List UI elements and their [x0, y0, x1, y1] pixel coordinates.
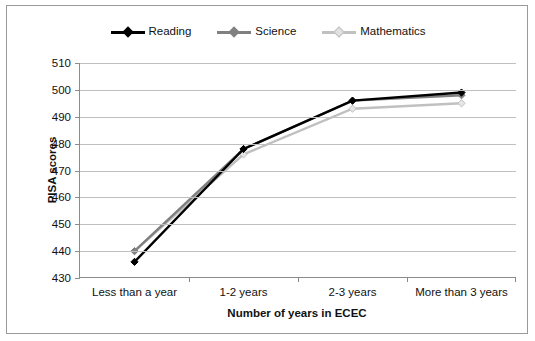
gridline: [80, 224, 516, 225]
y-axis-label: 470: [52, 165, 71, 177]
gridline: [80, 144, 516, 145]
chart-frame: Reading Science Mathematics PISA scores …: [6, 5, 528, 334]
y-axis-tick: [75, 171, 80, 172]
gridline: [80, 251, 516, 252]
legend-item-reading: Reading: [111, 26, 192, 38]
y-axis-tick: [75, 224, 80, 225]
gridline: [80, 90, 516, 91]
y-axis-tick: [75, 90, 80, 91]
gridline: [80, 117, 516, 118]
y-axis-label: 450: [52, 218, 71, 230]
y-axis-tick: [75, 251, 80, 252]
x-axis-tick: [515, 277, 516, 282]
x-axis-label: 1-2 years: [220, 286, 268, 298]
data-point-marker: [349, 97, 356, 104]
legend-key-mathematics: [322, 26, 356, 38]
y-axis-tick: [75, 144, 80, 145]
y-axis-label: 500: [52, 84, 71, 96]
diamond-marker-icon: [334, 26, 345, 37]
data-point-marker: [458, 100, 465, 107]
y-axis-tick: [75, 63, 80, 64]
y-axis-label: 480: [52, 138, 71, 150]
chart-legend: Reading Science Mathematics: [7, 26, 529, 38]
y-axis-tick: [75, 278, 80, 279]
x-axis-tick: [189, 277, 190, 282]
x-axis-label: 2-3 years: [329, 286, 377, 298]
legend-key-reading: [111, 26, 145, 38]
series-line-reading: [135, 93, 462, 262]
y-axis-label: 490: [52, 111, 71, 123]
y-axis-label: 440: [52, 245, 71, 257]
y-axis-tick: [75, 197, 80, 198]
legend-label-reading: Reading: [149, 26, 192, 38]
x-axis-label: Less than a year: [92, 286, 177, 298]
x-axis-title: Number of years in ECEC: [79, 307, 515, 319]
y-axis-label: 430: [52, 272, 71, 284]
gridline: [80, 63, 516, 64]
series-line-science: [135, 95, 462, 251]
gridline: [80, 197, 516, 198]
data-point-marker: [349, 105, 356, 112]
y-axis-label: 510: [52, 57, 71, 69]
legend-label-science: Science: [255, 26, 296, 38]
legend-key-science: [217, 26, 251, 38]
legend-item-mathematics: Mathematics: [322, 26, 425, 38]
y-axis-tick: [75, 117, 80, 118]
legend-item-science: Science: [217, 26, 296, 38]
x-axis-tick: [407, 277, 408, 282]
diamond-marker-icon: [122, 26, 133, 37]
x-axis-label: More than 3 years: [415, 286, 508, 298]
x-axis-tick: [298, 277, 299, 282]
gridline: [80, 171, 516, 172]
diamond-marker-icon: [229, 26, 240, 37]
plot-area: 430440450460470480490500510Less than a y…: [79, 63, 515, 278]
legend-label-mathematics: Mathematics: [360, 26, 425, 38]
y-axis-label: 460: [52, 191, 71, 203]
